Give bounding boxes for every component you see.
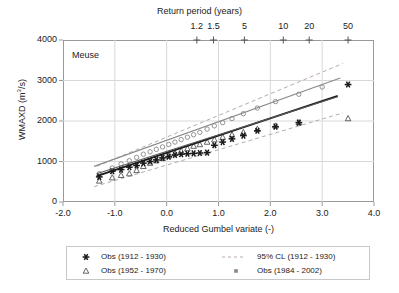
legend-label: Obs (1952 - 1970) — [101, 266, 166, 275]
y-tick-label: 2000 — [23, 115, 57, 125]
x-tick-label: 2.0 — [253, 208, 287, 218]
plot-frame — [63, 40, 374, 202]
legend-marker-square — [234, 269, 238, 273]
basin-annotation: Meuse — [72, 50, 99, 60]
legend-label: Obs (1984 - 2002) — [257, 266, 322, 275]
y-tick-label: 1000 — [23, 156, 57, 166]
return-period-tick-label: 5 — [229, 21, 259, 31]
top-axis-title: Return period (years) — [0, 6, 399, 16]
y-axis-title-suffix: /s) — [17, 79, 27, 89]
return-period-tick-label: 20 — [294, 21, 324, 31]
return-period-tick-label: 1.5 — [198, 21, 228, 31]
chart-root: Return period (years) 1.21.55102050 0100… — [0, 0, 399, 293]
y-axis-title-exponent: 3 — [16, 89, 22, 92]
x-tick-label: 3.0 — [305, 208, 339, 218]
x-tick-label: 1.0 — [202, 208, 236, 218]
x-axis-title: Reduced Gumbel variate (-) — [63, 224, 374, 234]
x-tick-label: 0.0 — [150, 208, 184, 218]
x-tick-label: -2.0 — [46, 208, 80, 218]
legend-label: Obs (1912 - 1930) — [101, 252, 166, 261]
marker-triangle — [83, 268, 89, 273]
return-period-tick-label: 50 — [333, 21, 363, 31]
y-tick-label: 3000 — [23, 75, 57, 85]
y-axis-title: WMAXD (m3/s) — [16, 35, 27, 185]
chart-legend: Obs (1912 - 1930)95% CL (1912 - 1930)Obs… — [66, 246, 370, 280]
x-tick-label: 4.0 — [357, 208, 391, 218]
y-axis-title-prefix: WMAXD (m — [17, 92, 27, 140]
legend-label: 95% CL (1912 - 1930) — [257, 252, 335, 261]
y-tick-label: 0 — [23, 196, 57, 206]
y-tick-label: 4000 — [23, 34, 57, 44]
x-tick-label: -1.0 — [98, 208, 132, 218]
